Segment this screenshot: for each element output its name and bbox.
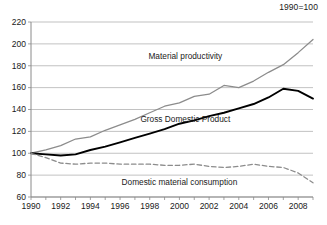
y-tick-label-80: 80 bbox=[17, 170, 27, 180]
x-tick-label-2002: 2002 bbox=[200, 201, 219, 211]
x-tick-label-2006: 2006 bbox=[259, 201, 278, 211]
line-chart-canvas: 6080100120140160180200220 19901992199419… bbox=[0, 0, 327, 225]
chart-figure: 1990=100 6080100120140160180200220 19901… bbox=[0, 0, 327, 225]
x-tick-label-1998: 1998 bbox=[140, 201, 159, 211]
x-tick-label-2000: 2000 bbox=[170, 201, 189, 211]
x-axis-tick-labels: 1990199219941996199820002002200420062008 bbox=[22, 201, 308, 211]
x-tick-label-1992: 1992 bbox=[51, 201, 70, 211]
y-axis-tick-labels: 6080100120140160180200220 bbox=[12, 17, 26, 202]
y-tick-label-220: 220 bbox=[12, 17, 26, 27]
x-tick-label-2004: 2004 bbox=[229, 201, 248, 211]
y-tick-label-140: 140 bbox=[12, 104, 26, 114]
y-tick-label-200: 200 bbox=[12, 39, 26, 49]
annotation-label-1: Gross Domestic Product bbox=[140, 114, 231, 124]
x-tick-label-1996: 1996 bbox=[111, 201, 130, 211]
x-tick-label-1990: 1990 bbox=[22, 201, 41, 211]
y-tick-label-180: 180 bbox=[12, 61, 26, 71]
annotation-label-2: Domestic material consumption bbox=[122, 177, 238, 187]
y-tick-label-100: 100 bbox=[12, 148, 26, 158]
annotation-label-0: Material productivity bbox=[148, 51, 223, 61]
y-tick-label-120: 120 bbox=[12, 126, 26, 136]
x-tick-label-2008: 2008 bbox=[289, 201, 308, 211]
x-tick-label-1994: 1994 bbox=[81, 201, 100, 211]
gridlines bbox=[31, 22, 313, 197]
y-tick-label-160: 160 bbox=[12, 82, 26, 92]
